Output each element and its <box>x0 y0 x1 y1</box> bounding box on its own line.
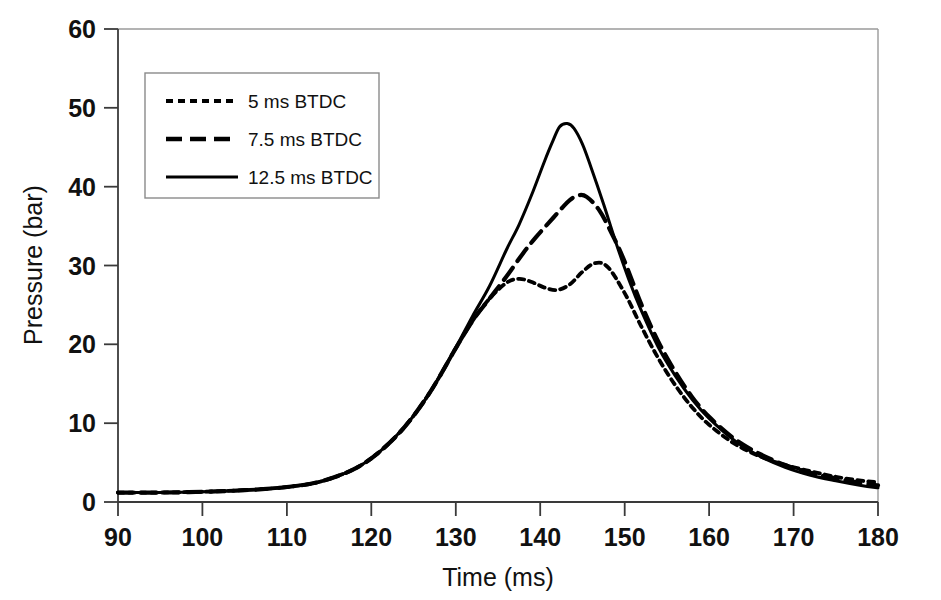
x-tick-label-180: 180 <box>857 523 899 551</box>
y-axis-title: Pressure (bar) <box>19 185 47 345</box>
legend-label-12-5ms: 12.5 ms BTDC <box>248 167 373 188</box>
x-tick-label-160: 160 <box>688 523 730 551</box>
y-tick-label-10: 10 <box>68 409 96 437</box>
x-tick-label-100: 100 <box>182 523 224 551</box>
y-tick-label-40: 40 <box>68 173 96 201</box>
pressure-time-plot: 60 50 40 30 20 10 0 90 100 110 120 130 1… <box>0 0 941 600</box>
y-tick-label-50: 50 <box>68 94 96 122</box>
legend: 5 ms BTDC 7.5 ms BTDC 12.5 ms BTDC <box>145 73 379 198</box>
x-tick-label-110: 110 <box>267 523 307 551</box>
y-tick-label-60: 60 <box>68 15 96 43</box>
x-tick-label-90: 90 <box>104 523 132 551</box>
x-tick-label-170: 170 <box>773 523 815 551</box>
x-tick-label-120: 120 <box>350 523 392 551</box>
legend-label-7-5ms: 7.5 ms BTDC <box>248 129 362 150</box>
x-axis-title: Time (ms) <box>442 563 554 591</box>
x-tick-label-130: 130 <box>435 523 477 551</box>
x-tick-label-140: 140 <box>519 523 561 551</box>
plot-background <box>0 0 941 600</box>
chart-figure: 60 50 40 30 20 10 0 90 100 110 120 130 1… <box>0 0 941 600</box>
x-tick-label-150: 150 <box>604 523 646 551</box>
y-tick-label-30: 30 <box>68 252 96 280</box>
y-tick-label-20: 20 <box>68 330 96 358</box>
legend-label-5ms: 5 ms BTDC <box>248 91 346 112</box>
y-tick-label-0: 0 <box>82 488 96 516</box>
